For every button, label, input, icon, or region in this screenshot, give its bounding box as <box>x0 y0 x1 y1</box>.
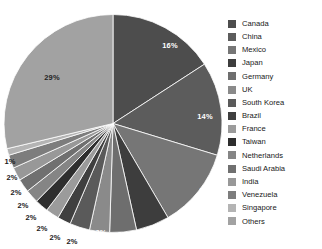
legend-item[interactable]: China <box>228 30 322 43</box>
legend-item[interactable]: India <box>228 175 322 188</box>
legend-swatch-icon <box>228 204 236 212</box>
pie-plot-area: 16%14%12%5%4%3%3%2%2%2%2%2%2%2%1%29% <box>0 0 226 249</box>
legend-item[interactable]: France <box>228 123 322 136</box>
legend-item[interactable]: Germany <box>228 70 322 83</box>
pie-slice-group <box>4 14 222 232</box>
legend-swatch-icon <box>228 178 236 186</box>
legend-item-label: China <box>242 33 262 41</box>
legend-swatch-icon <box>228 112 236 120</box>
legend-item-label: South Korea <box>242 99 284 107</box>
legend-item[interactable]: Singapore <box>228 202 322 215</box>
legend-swatch-icon <box>228 86 236 94</box>
legend-swatch-icon <box>228 99 236 107</box>
legend-item[interactable]: South Korea <box>228 96 322 109</box>
legend-item-label: Canada <box>242 20 269 28</box>
legend-swatch-icon <box>228 59 236 67</box>
pie-chart-figure: 16%14%12%5%4%3%3%2%2%2%2%2%2%2%1%29% Can… <box>0 0 322 249</box>
legend-swatch-icon <box>228 165 236 173</box>
pie-svg <box>0 0 226 249</box>
legend-item[interactable]: Venezuela <box>228 188 322 201</box>
legend-item-label: Saudi Arabia <box>242 165 285 173</box>
legend-item[interactable]: Brazil <box>228 109 322 122</box>
legend-swatch-icon <box>228 125 236 133</box>
legend-swatch-icon <box>228 72 236 80</box>
legend-swatch-icon <box>228 191 236 199</box>
legend-swatch-icon <box>228 217 236 225</box>
legend-item[interactable]: Netherlands <box>228 149 322 162</box>
legend-swatch-icon <box>228 151 236 159</box>
legend-item[interactable]: UK <box>228 83 322 96</box>
chart-legend: CanadaChinaMexicoJapanGermanyUKSouth Kor… <box>228 17 322 228</box>
legend-item-label: India <box>242 178 258 186</box>
legend-swatch-icon <box>228 33 236 41</box>
legend-item-label: Venezuela <box>242 191 277 199</box>
legend-item-label: Singapore <box>242 204 277 212</box>
legend-item[interactable]: Others <box>228 215 322 228</box>
legend-item-label: UK <box>242 86 253 94</box>
legend-item-label: Brazil <box>242 112 261 120</box>
legend-item-label: Germany <box>242 73 273 81</box>
legend-item[interactable]: Canada <box>228 17 322 30</box>
legend-item-label: Taiwan <box>242 138 266 146</box>
legend-item-label: Mexico <box>242 46 266 54</box>
legend-item[interactable]: Taiwan <box>228 136 322 149</box>
legend-item-label: France <box>242 125 266 133</box>
legend-item[interactable]: Japan <box>228 57 322 70</box>
legend-item-label: Others <box>242 218 265 226</box>
legend-item-label: Netherlands <box>242 152 283 160</box>
legend-item[interactable]: Saudi Arabia <box>228 162 322 175</box>
legend-item[interactable]: Mexico <box>228 43 322 56</box>
legend-item-label: Japan <box>242 59 263 67</box>
legend-swatch-icon <box>228 20 236 28</box>
legend-swatch-icon <box>228 46 236 54</box>
legend-swatch-icon <box>228 138 236 146</box>
